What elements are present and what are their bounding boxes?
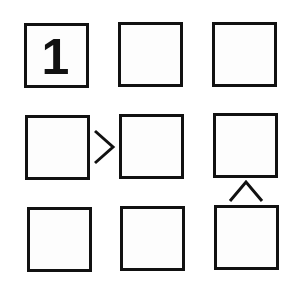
cell-r3-c3[interactable] xyxy=(214,205,279,270)
cell-value: 1 xyxy=(42,32,70,82)
cell-r2-c2[interactable] xyxy=(119,114,184,179)
greater-than-icon xyxy=(92,128,118,166)
cell-r1-c1[interactable]: 1 xyxy=(24,23,89,88)
cell-r2-c3[interactable] xyxy=(213,113,278,178)
caret-up-icon xyxy=(227,178,265,204)
cell-r2-c1[interactable] xyxy=(25,115,90,180)
cell-r3-c1[interactable] xyxy=(27,207,92,272)
cell-r3-c2[interactable] xyxy=(120,206,185,271)
cell-r1-c2[interactable] xyxy=(118,22,183,87)
cell-r1-c3[interactable] xyxy=(212,22,277,87)
futoshiki-board: 1 xyxy=(0,0,298,282)
